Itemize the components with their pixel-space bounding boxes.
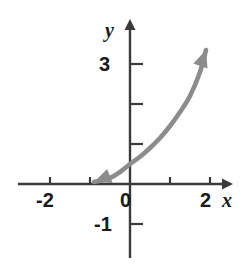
curve-end-arrowhead — [193, 50, 207, 69]
x-axis-tick-label--2: -2 — [36, 190, 54, 210]
y-axis-name-label: y — [105, 20, 114, 40]
y-axis-tick-label-3: 3 — [99, 54, 110, 74]
x-axis-arrowhead — [222, 179, 233, 190]
x-axis-tick-label-0: 0 — [120, 190, 131, 210]
y-axis-tick-label--1: -1 — [94, 214, 112, 234]
coordinate-plane — [0, 0, 244, 264]
y-axis-arrowhead — [125, 19, 136, 30]
exponential-curve — [94, 50, 206, 182]
x-axis-name-label: x — [222, 190, 232, 210]
curve-start-arrowhead — [94, 169, 113, 183]
x-axis-tick-label-2: 2 — [200, 190, 211, 210]
graph-figure: -2 0 2 3 -1 y x — [0, 0, 244, 264]
